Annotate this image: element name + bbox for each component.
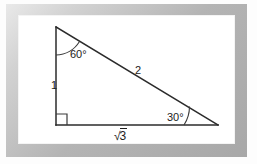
image-canvas: 60° 30° 1 2 √3 [0, 0, 257, 164]
side-label-base: √3 [114, 130, 127, 142]
angle-label-bottom-right: 30° [167, 112, 184, 123]
angle-arc-bottom-right [184, 107, 190, 126]
angle-label-top: 60° [70, 49, 87, 60]
triangle-hypotenuse [56, 27, 218, 125]
picture-frame-border: 60° 30° 1 2 √3 [6, 4, 247, 157]
side-label-vertical-leg: 1 [51, 80, 57, 91]
diagram-area: 60° 30° 1 2 √3 [18, 15, 235, 144]
side-label-hypotenuse: 2 [135, 65, 141, 76]
right-angle-marker [56, 114, 67, 125]
radical-expression: √3 [114, 130, 127, 142]
picture-frame-matte: 60° 30° 1 2 √3 [18, 15, 235, 144]
radical-argument: 3 [120, 128, 128, 143]
